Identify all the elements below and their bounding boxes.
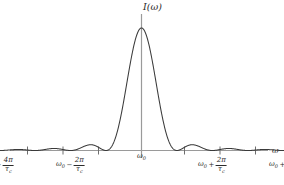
operator-symbol: + — [279, 162, 284, 169]
fraction-denominator: τc — [4, 165, 13, 174]
x-tick-label: ω0−4πτc — [0, 157, 14, 174]
omega-zero-symbol: ω0 — [198, 161, 207, 169]
x-tick-label: ω0 — [137, 153, 146, 161]
fraction: 4πτc — [3, 157, 14, 174]
fraction-denominator: τc — [75, 165, 84, 174]
x-tick-label: ω0+4πτc — [269, 157, 284, 174]
tick-label-content: ω0 — [137, 153, 146, 161]
y-axis-label: I(ω) — [143, 2, 162, 12]
operator-symbol: − — [66, 162, 72, 169]
tick-label-content: ω0−2πτc — [56, 157, 85, 174]
operator-symbol: + — [208, 162, 214, 169]
axes-group — [10, 14, 268, 158]
x-tick-label: ω0−2πτc — [56, 157, 85, 174]
fraction-denominator: τc — [217, 165, 226, 174]
fraction-numerator: 4π — [3, 157, 14, 165]
omega-zero-symbol: ω0 — [137, 153, 146, 161]
fraction-numerator: 2π — [74, 157, 85, 165]
fraction: 2πτc — [216, 157, 227, 174]
fraction: 2πτc — [74, 157, 85, 174]
tick-label-content: ω0+4πτc — [269, 157, 284, 174]
operator-symbol: − — [0, 162, 1, 169]
omega-zero-symbol: ω0 — [56, 161, 65, 169]
spectral-intensity-figure: I(ω) ω ω0−4πτcω0−2πτcω0ω0+2πτcω0+4πτc — [0, 0, 284, 185]
tick-label-content: ω0+2πτc — [198, 157, 227, 174]
x-axis-label: ω — [272, 147, 279, 155]
fraction-numerator: 2π — [216, 157, 227, 165]
omega-zero-symbol: ω0 — [269, 161, 278, 169]
tick-label-content: ω0−4πτc — [0, 157, 14, 174]
x-tick-label: ω0+2πτc — [198, 157, 227, 174]
